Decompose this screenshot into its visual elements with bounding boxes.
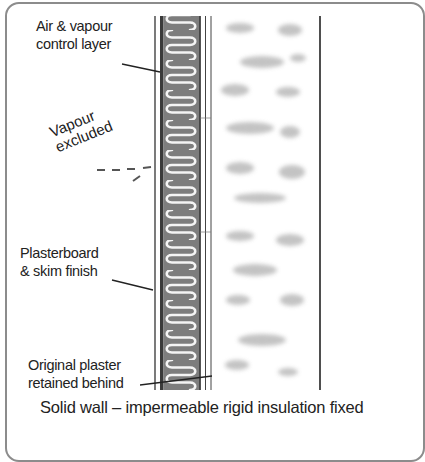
original-plaster-label-line1: Original plaster bbox=[28, 356, 123, 374]
plasterboard-leader bbox=[112, 280, 153, 290]
avcl-label-line2: control layer bbox=[36, 35, 112, 53]
vapour-arrow bbox=[97, 167, 151, 181]
diagram-caption: Solid wall – impermeable rigid insulatio… bbox=[40, 398, 364, 417]
avcl-label: Air & vapour control layer bbox=[36, 17, 112, 53]
rigid-insulation bbox=[164, 16, 200, 390]
original-plaster-label: Original plaster retained behind bbox=[28, 356, 123, 392]
plasterboard-label: Plasterboard & skim finish bbox=[20, 244, 99, 280]
plasterboard-label-line2: & skim finish bbox=[20, 262, 99, 280]
vapour-control-layer bbox=[160, 16, 164, 390]
avcl-label-line1: Air & vapour bbox=[36, 17, 112, 35]
solid-brick-wall bbox=[221, 23, 306, 376]
plasterboard-label-line1: Plasterboard bbox=[20, 244, 99, 262]
original-plaster-label-line2: retained behind bbox=[28, 374, 123, 392]
avcl-leader bbox=[122, 64, 160, 72]
